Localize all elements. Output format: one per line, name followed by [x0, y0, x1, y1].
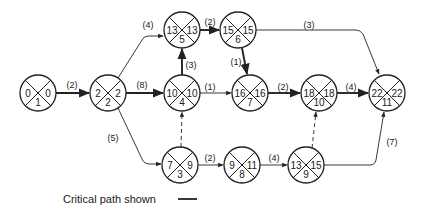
label-1-2: (2) — [67, 80, 78, 90]
node-event-6: 15156 — [220, 12, 256, 48]
label-2-4: (8) — [137, 80, 148, 90]
label-2-5: (4) — [143, 20, 154, 30]
node-event-4: 10104 — [164, 75, 200, 111]
node-event-number: 11 — [382, 97, 393, 108]
node-latest-time: 18 — [323, 88, 335, 99]
node-earliest-time: 13 — [166, 25, 178, 36]
node-earliest-time: 9 — [229, 160, 235, 171]
node-latest-time: 9 — [187, 160, 193, 171]
node-latest-time: 11 — [247, 160, 258, 171]
node-earliest-time: 15 — [222, 25, 234, 36]
edge-9-11 — [324, 112, 384, 165]
legend-text: Critical path shown — [63, 193, 156, 205]
label-4-5: (3) — [186, 60, 197, 70]
node-event-9: 13159 — [288, 147, 324, 183]
legend: Critical path shown — [63, 193, 197, 205]
node-event-10: 181810 — [301, 75, 337, 111]
dummy-edge-3-4 — [181, 112, 182, 147]
label-6-7: (1) — [231, 57, 242, 67]
label-4-7: (1) — [205, 82, 216, 92]
node-latest-time: 0 — [45, 88, 51, 99]
node-event-number: 4 — [179, 97, 185, 108]
node-earliest-time: 2 — [95, 88, 101, 99]
node-event-number: 8 — [239, 169, 245, 180]
label-7-10: (2) — [278, 82, 289, 92]
node-latest-time: 15 — [242, 25, 254, 36]
node-event-5: 13135 — [164, 12, 200, 48]
label-9-11: (7) — [387, 137, 398, 147]
node-latest-time: 13 — [186, 25, 198, 36]
node-latest-time: 15 — [310, 160, 322, 171]
node-latest-time: 10 — [186, 88, 198, 99]
edge-6-11 — [256, 30, 379, 74]
node-latest-time: 2 — [115, 88, 121, 99]
edge-2-5 — [118, 36, 163, 78]
network-diagram: (2) (4) (8) (5) (3) (2) (1) (3) (1) (2) … — [0, 0, 422, 211]
node-event-number: 5 — [179, 34, 185, 45]
dummy-edge-9-10 — [312, 112, 316, 148]
node-event-7: 16167 — [232, 75, 268, 111]
node-latest-time: 16 — [254, 88, 266, 99]
node-event-11: 222211 — [369, 75, 405, 111]
label-2-3: (5) — [108, 133, 119, 143]
node-event-8: 9118 — [224, 147, 260, 183]
label-5-6: (2) — [205, 17, 216, 27]
node-earliest-time: 7 — [167, 160, 173, 171]
node-event-number: 3 — [177, 169, 183, 180]
edge-6-7 — [242, 48, 247, 74]
node-earliest-time: 16 — [234, 88, 246, 99]
node-event-number: 6 — [235, 34, 241, 45]
node-event-number: 7 — [247, 97, 253, 108]
node-latest-time: 22 — [391, 88, 403, 99]
node-event-number: 10 — [313, 97, 325, 108]
node-event-number: 2 — [105, 97, 111, 108]
node-event-number: 1 — [35, 97, 41, 108]
node-earliest-time: 0 — [25, 88, 31, 99]
node-earliest-time: 10 — [166, 88, 178, 99]
node-event-2: 222 — [90, 75, 126, 111]
label-3-8: (2) — [205, 153, 216, 163]
node-earliest-time: 13 — [290, 160, 302, 171]
node-event-number: 9 — [303, 169, 309, 180]
label-8-9: (4) — [269, 153, 280, 163]
edge-2-3 — [118, 108, 161, 164]
node-event-3: 793 — [162, 147, 198, 183]
label-10-11: (4) — [346, 82, 357, 92]
node-event-1: 001 — [20, 75, 56, 111]
label-6-11: (3) — [304, 20, 315, 30]
